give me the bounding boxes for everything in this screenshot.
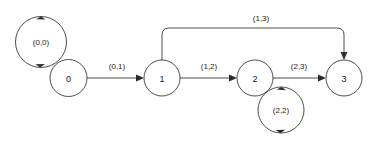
edge-label-0-1: (0,1) [109,62,126,71]
node-label-3: 3 [341,74,346,84]
node-label-2: 2 [252,74,257,84]
arrowhead-1-3 [341,52,348,60]
edge-path-1-3 [162,28,344,60]
node-3[interactable]: 3 [326,60,362,96]
edge-0-to-1: (0,1) [87,62,144,82]
edge-1-to-2: (1,2) [180,62,237,82]
edge-2-to-3: (2,3) [273,62,326,82]
arrowhead-1-2 [229,75,237,82]
node-label-1: 1 [159,74,164,84]
edge-0-to-0-self-loop: (0,0) [16,17,67,68]
diagram-canvas: (0,0) 0 (0,1) 1 (1,2) 2 [0,0,377,143]
node-1[interactable]: 1 [144,60,180,96]
arrowhead-2-3 [318,75,326,82]
node-2[interactable]: 2 [237,60,273,96]
state-diagram: (0,0) 0 (0,1) 1 (1,2) 2 [0,0,377,143]
node-0[interactable]: 0 [50,60,87,97]
edge-1-to-3-arc: (1,3) [162,14,347,61]
edge-label-1-2: (1,2) [201,62,218,71]
node-label-0: 0 [66,74,71,84]
arrowhead-0-1 [136,75,144,82]
edge-2-to-2-self-loop: (2,2) [258,87,304,133]
edge-label-1-3: (1,3) [253,14,270,23]
edge-label-2-3: (2,3) [291,62,308,71]
edge-label-0-0: (0,0) [33,38,50,47]
edge-label-2-2: (2,2) [273,106,290,115]
